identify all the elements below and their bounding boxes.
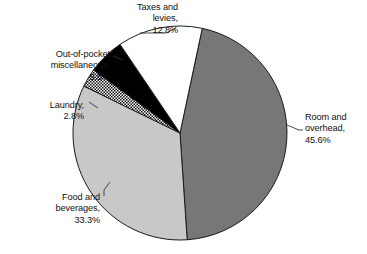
pie-label-laundry: Laundry, 2.8% [2,100,84,123]
pie-label-out-of-pocket-miscellaneous: Out-of-pocket miscellaneous, 5.5% [2,49,110,83]
pie-label-food-and-beverages: Food and beverages, 33.3% [18,192,100,226]
pie-chart: Taxes and levies, 12.8% Out-of-pocket mi… [0,0,367,254]
pie-label-taxes-and-levies: Taxes and levies, 12.8% [86,2,178,36]
pie-label-room-and-overhead: Room and overhead, 45.6% [305,112,367,146]
pie-slice-room-and-overhead[interactable] [180,28,287,239]
leader-line-room-and-overhead [287,125,303,130]
